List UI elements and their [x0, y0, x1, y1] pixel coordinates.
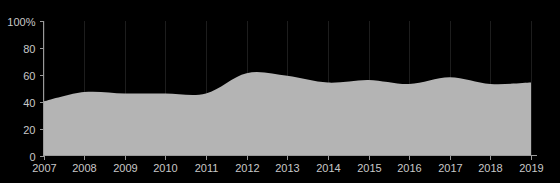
- x-tick-label-2019: 2019: [519, 162, 543, 174]
- x-tick-label-2009: 2009: [113, 162, 137, 174]
- y-tick-label-60: 60: [23, 70, 35, 82]
- x-tick-label-2011: 2011: [195, 162, 219, 174]
- x-tick-label-2010: 2010: [153, 162, 177, 174]
- y-tick-label-40: 40: [23, 97, 35, 109]
- x-tick-label-2016: 2016: [397, 162, 421, 174]
- x-tick-label-2014: 2014: [316, 162, 340, 174]
- x-tick-label-2007: 2007: [32, 162, 56, 174]
- x-tick-label-2018: 2018: [478, 162, 502, 174]
- area-chart: 020406080100% 20072008200920102011201220…: [0, 0, 560, 183]
- x-tick-label-2012: 2012: [235, 162, 259, 174]
- x-tick-label-2017: 2017: [438, 162, 462, 174]
- y-tick-label-100%: 100%: [7, 16, 35, 28]
- chart-canvas: 020406080100% 20072008200920102011201220…: [0, 0, 560, 183]
- y-tick-label-20: 20: [23, 124, 35, 136]
- y-tick-label-80: 80: [23, 43, 35, 55]
- x-tick-label-2015: 2015: [357, 162, 381, 174]
- x-tick-label-2008: 2008: [72, 162, 96, 174]
- x-tick-label-2013: 2013: [275, 162, 299, 174]
